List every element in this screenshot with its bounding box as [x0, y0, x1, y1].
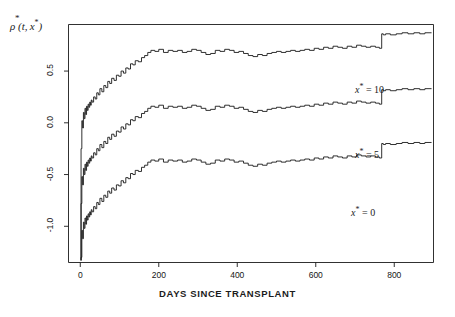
series-annotation-x-star-5: x* = 5 [355, 147, 379, 160]
plot-frame [69, 25, 434, 263]
x-axis-title: DAYS SINCE TRANSPLANT [0, 288, 455, 299]
x-tick-label: 800 [374, 270, 414, 280]
series-annotation-x-star-0: x* = 0 [351, 205, 375, 218]
y-tick-label: -1.0 [45, 211, 55, 239]
x-tick-label: 0 [60, 270, 100, 280]
x-tick-label: 400 [217, 270, 257, 280]
y-tick-label: -0.5 [45, 160, 55, 188]
y-tick-label: 0.0 [45, 108, 55, 136]
figure-container: *ρ (t, x*) 0200400600800 0.50.0-0.5-1.0 … [0, 0, 455, 317]
x-tick-label: 600 [296, 270, 336, 280]
series-annotation-x-star-10: x* = 10 [355, 82, 384, 95]
x-tick-label: 200 [139, 270, 179, 280]
y-tick-label: 0.5 [45, 56, 55, 84]
